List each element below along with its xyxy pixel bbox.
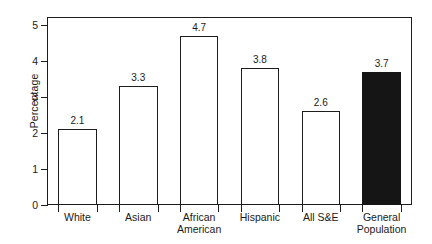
x-axis-category-label: General Population: [351, 212, 412, 235]
x-axis-tick: [97, 205, 98, 212]
x-axis-category-label: Hispanic: [230, 212, 291, 224]
chart-screenshot: Percentage 012345 2.13.34.73.82.63.7 Whi…: [0, 0, 432, 244]
y-axis-tick-label: 2: [12, 127, 38, 139]
y-axis-tick: [41, 205, 48, 206]
x-axis-tick: [401, 205, 402, 212]
x-axis-category-label: White: [47, 212, 108, 224]
x-axis-tick: [218, 205, 219, 212]
x-axis-category-label: Asian: [108, 212, 169, 224]
x-axis-tick: [180, 205, 181, 212]
x-axis-tick: [158, 205, 159, 212]
y-axis-tick-label: 3: [12, 91, 38, 103]
x-axis-tick: [58, 205, 59, 212]
y-axis-tick-label: 0: [12, 199, 38, 211]
y-axis-tick-label: 5: [12, 19, 38, 31]
plot-area: [47, 17, 412, 205]
x-axis-tick: [340, 205, 341, 212]
x-axis-tick: [119, 205, 120, 212]
y-axis-tick-label: 1: [12, 163, 38, 175]
y-axis-tick-label: 4: [12, 55, 38, 67]
x-axis-category-label: All S&E: [290, 212, 351, 224]
x-axis-category-label: African American: [169, 212, 230, 235]
